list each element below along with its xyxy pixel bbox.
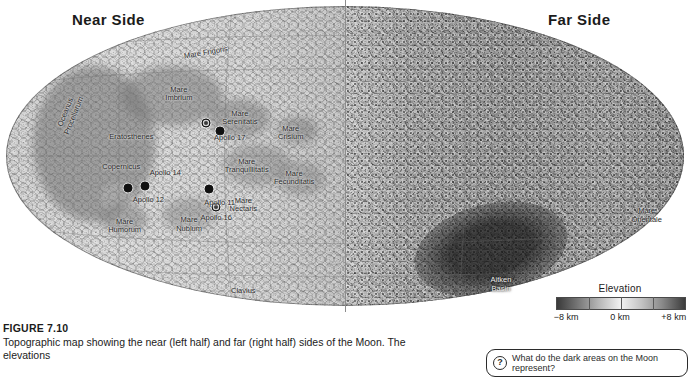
question-mark-icon: ? (493, 356, 507, 370)
legend-label-mid: 0 km (610, 312, 630, 322)
landing-site-marker-apollo-14[interactable] (140, 182, 149, 191)
legend-label-max: +8 km (661, 312, 686, 322)
hemisphere-divider (345, 0, 346, 312)
question-callout-box[interactable]: ? What do the dark areas on the Moon rep… (486, 349, 688, 377)
legend-title: Elevation (556, 283, 684, 294)
landing-site-marker-apollo-11[interactable] (205, 185, 214, 194)
legend-tick-1 (589, 297, 590, 310)
callout-text: What do the dark areas on the Moon repre… (512, 353, 681, 373)
legend-gradient-bar (556, 297, 686, 310)
legend-tick-2 (621, 297, 622, 310)
legend-tick-3 (653, 297, 654, 310)
landing-site-marker-apollo-15[interactable] (215, 126, 224, 135)
legend-tick-labels: −8 km 0 km +8 km (556, 312, 684, 324)
legend-label-min: −8 km (554, 312, 579, 322)
landing-site-marker-apollo-16[interactable] (212, 203, 221, 212)
figure-caption: FIGURE 7.10 Topographic map showing the … (3, 322, 433, 361)
moon-topographic-map: Oceanus Procellarum Mare Frigoris Mare I… (6, 6, 684, 306)
elevation-legend: Elevation −8 km 0 km +8 km (556, 283, 684, 324)
figure-number: FIGURE 7.10 (3, 322, 433, 334)
landing-site-marker-apollo-12[interactable] (124, 183, 133, 192)
landing-site-marker-apollo-17[interactable] (202, 119, 211, 128)
caption-text: Topographic map showing the near (left h… (3, 336, 433, 361)
